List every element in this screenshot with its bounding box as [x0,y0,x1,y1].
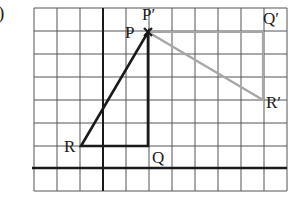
label-Q-prime: Q′ [263,9,279,28]
label-Q: Q [152,148,164,167]
rotation-diagram: P P′ Q Q′ R R′ [0,0,304,204]
label-P: P [125,23,134,42]
label-P-prime: P′ [142,5,155,24]
image-triangle [148,32,263,100]
original-triangle [81,32,148,146]
label-R-prime: R′ [266,93,281,112]
label-R: R [64,137,76,156]
